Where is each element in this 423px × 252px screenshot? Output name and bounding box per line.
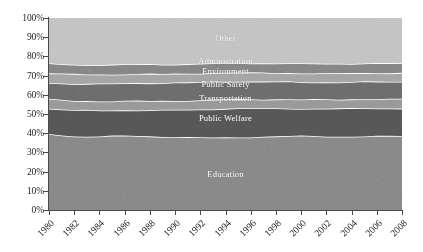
x-tick-mark [175,210,176,215]
y-axis-line [48,17,49,211]
band-label-education: Education [207,169,243,179]
band-label-public-safety: Public Safety [201,79,249,89]
x-tick-mark [402,210,403,215]
y-tick-label: 0% [32,205,44,215]
x-tick-mark [301,210,302,215]
x-tick-mark [49,210,50,215]
x-tick-label: 1998 [258,218,283,243]
y-tick-label: 40% [27,128,44,138]
x-tick-label: 1990 [157,218,182,243]
x-tick-mark [276,210,277,215]
x-tick-label: 1980 [31,218,56,243]
x-tick-mark [251,210,252,215]
x-tick-label: 1984 [81,218,106,243]
x-tick-mark [150,210,151,215]
x-tick-label: 2006 [358,218,383,243]
x-tick-mark [99,210,100,215]
x-tick-label: 1988 [132,218,157,243]
x-tick-label: 1992 [182,218,207,243]
band-label-other: Other [215,33,235,43]
x-tick-label: 1996 [232,218,257,243]
y-tick-label: 70% [27,71,44,81]
x-tick-label: 1994 [207,218,232,243]
y-tick-label: 60% [27,90,44,100]
x-tick-mark [125,210,126,215]
x-tick-mark [226,210,227,215]
band-label-public-welfare: Public Welfare [199,113,252,123]
x-tick-label: 2000 [283,218,308,243]
x-tick-label: 2002 [308,218,333,243]
y-tick-label: 20% [27,167,44,177]
x-tick-mark [352,210,353,215]
x-tick-mark [326,210,327,215]
y-tick-label: 80% [27,51,44,61]
x-tick-mark [74,210,75,215]
stacked-area-chart: 0%10%20%30%40%50%60%70%80%90%100% 198019… [0,0,423,252]
y-tick-label: 90% [27,32,44,42]
y-tick-label: 50% [27,109,44,119]
x-tick-mark [200,210,201,215]
band-label-administration: Administration [198,56,252,66]
y-tick-label: 10% [27,186,44,196]
x-tick-label: 1982 [56,218,81,243]
y-tick-label: 100% [22,13,44,23]
band-label-environment: Environment [202,66,249,76]
x-tick-mark [377,210,378,215]
y-tick-label: 30% [27,147,44,157]
band-label-transportation: Transportation [199,93,252,103]
x-tick-label: 1986 [106,218,131,243]
x-tick-label: 2004 [333,218,358,243]
x-tick-label: 2008 [384,218,409,243]
